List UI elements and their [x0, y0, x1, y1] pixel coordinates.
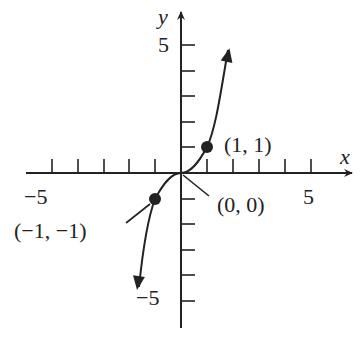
point-1-1 — [201, 141, 213, 153]
cubic-graph — [0, 0, 363, 338]
point-neg1-neg1 — [149, 193, 161, 205]
leader-neg1-neg1 — [126, 204, 150, 223]
x-tick-label-neg5: −5 — [24, 186, 47, 208]
x-axis-label: x — [340, 146, 350, 168]
curve-arrow-top — [221, 47, 236, 63]
y-axis-label: y — [158, 6, 168, 28]
cubic-curve — [139, 50, 228, 287]
point-label-neg1-neg1: (−1, −1) — [14, 220, 86, 242]
y-tick-label-neg5: −5 — [136, 287, 159, 309]
point-label-0-0: (0, 0) — [217, 194, 265, 216]
y-tick-label-5: 5 — [158, 34, 169, 56]
x-tick-label-5: 5 — [303, 186, 314, 208]
point-label-1-1: (1, 1) — [224, 134, 272, 156]
leader-0-0 — [183, 175, 209, 196]
